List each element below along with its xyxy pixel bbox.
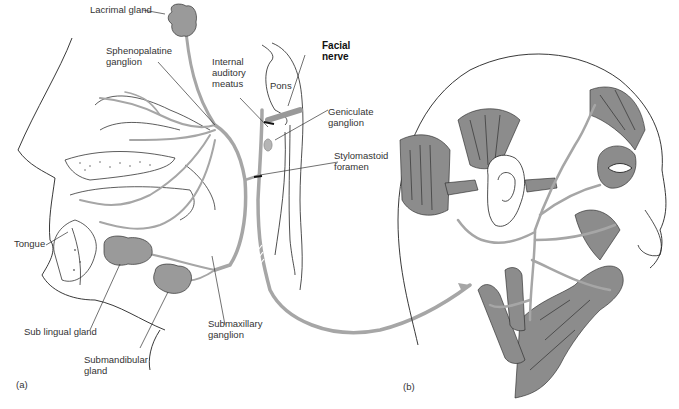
stylomastoid-marker [254,176,262,177]
sublingual-gland [104,236,152,265]
facial-nerve-diagram: Lacrimal gland Sphenopalatine ganglion I… [0,0,679,409]
label-pons: Pons [270,80,292,91]
panel-b-tag: (b) [403,381,415,392]
label-geniculate-ganglion: Geniculate ganglion [328,106,373,128]
nose-outline [638,210,661,256]
label-internal-auditory-meatus: Internal auditory meatus [212,56,246,89]
head-profile-outline [18,38,165,370]
facial-muscles [400,87,645,398]
label-sphenopalatine-ganglion: Sphenopalatine ganglion [106,45,172,67]
label-submaxillary-ganglion: Submaxillary ganglion [208,318,262,340]
label-tongue: Tongue [14,238,45,249]
lacrimal-gland [168,4,196,36]
label-lacrimal-gland: Lacrimal gland [90,4,152,15]
label-sublingual-gland: Sub lingual gland [24,326,97,337]
leader-lines [46,10,338,348]
label-facial-nerve: Facial nerve [322,40,350,62]
label-submandibular-gland: Submandibular gland [84,354,148,376]
meatus-marker [264,122,274,124]
submandibular-gland [154,264,192,293]
ear-outline [488,155,525,226]
facial-nerve-root [268,110,300,120]
panel-a-tag: (a) [16,379,28,390]
geniculate-ganglion-shape [264,139,272,151]
label-stylomastoid-foramen: Stylomastoid foramen [334,150,388,172]
